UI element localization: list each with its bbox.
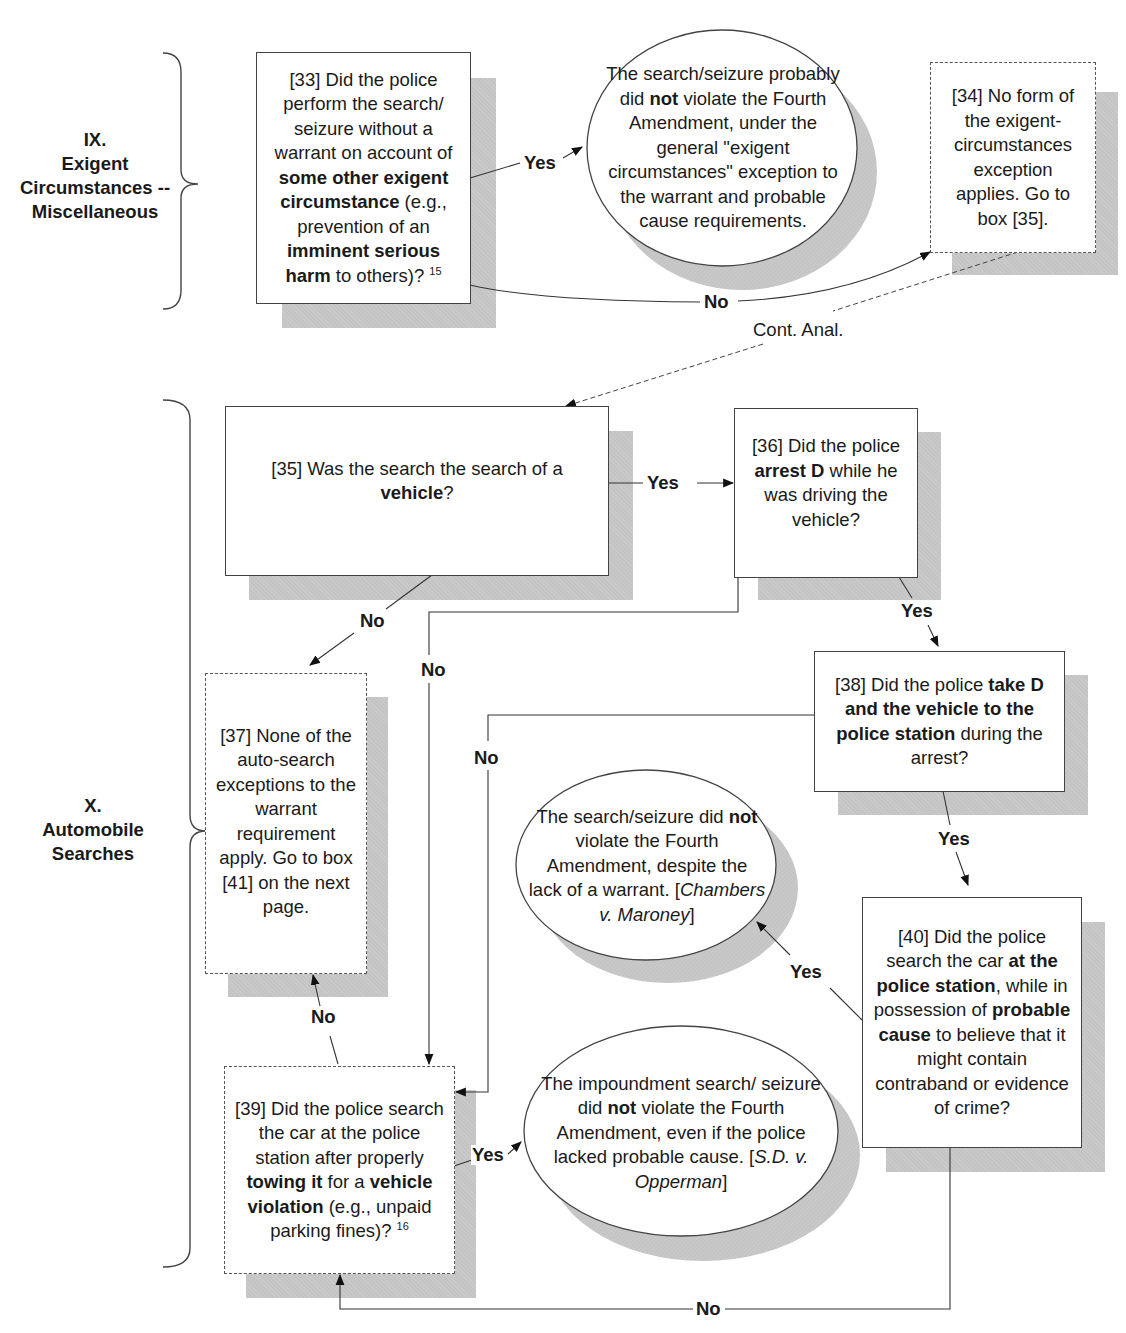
- oval-chambers-text: The search/seizure did not violate the F…: [528, 805, 766, 928]
- box-38-text: [38] Did the police take D and the vehic…: [825, 673, 1054, 771]
- section-ix-title-2: Circumstances --: [0, 176, 190, 200]
- edge-36-yes-label: Yes: [900, 601, 934, 621]
- box-36-text: [36] Did the police arrest D while he wa…: [745, 434, 907, 532]
- section-ix-number: IX.: [0, 128, 190, 152]
- oval-exigent: The search/seizure probably did not viol…: [592, 50, 854, 246]
- section-ix-title-3: Miscellaneous: [0, 200, 190, 224]
- edge-36-no-label: No: [420, 660, 447, 680]
- section-ix-title-1: Exigent: [0, 152, 190, 176]
- oval-opperman-text: The impoundment search/ seizure did not …: [536, 1072, 826, 1195]
- box-34: [34] No form of the exigent-circumstance…: [930, 62, 1096, 253]
- edge-39-yes-label: Yes: [471, 1145, 505, 1165]
- oval-chambers: The search/seizure did not violate the F…: [528, 800, 766, 932]
- footnote-16: 16: [397, 1220, 409, 1232]
- box-37-text: [37] None of the auto-search exceptions …: [214, 724, 358, 920]
- edge-38-no-label: No: [473, 748, 500, 768]
- section-x-number: X.: [0, 794, 186, 818]
- edge-33-no-label: No: [703, 292, 730, 312]
- box-35: [35] Was the search the search of a vehi…: [225, 406, 609, 576]
- edge-35-no-label: No: [359, 611, 386, 631]
- box-33-text: [33] Did the police perform the search/ …: [269, 68, 458, 289]
- edge-35-yes-label: Yes: [646, 473, 680, 493]
- edge-33-yes-label: Yes: [523, 153, 557, 173]
- section-ix-label: IX. Exigent Circumstances -- Miscellaneo…: [0, 128, 190, 224]
- box-40-text: [40] Did the police search the car at th…: [871, 925, 1073, 1121]
- box-36: [36] Did the police arrest D while he wa…: [734, 408, 918, 578]
- oval-opperman: The impoundment search/ seizure did not …: [536, 1065, 826, 1201]
- section-x-title-1: Automobile: [0, 818, 186, 842]
- edge-34-cont-label: Cont. Anal.: [753, 320, 844, 340]
- section-x-title-2: Searches: [0, 842, 186, 866]
- edge-39-no-label: No: [310, 1007, 337, 1027]
- oval-exigent-text: The search/seizure probably did not viol…: [596, 62, 850, 234]
- box-39-text: [39] Did the police search the car at th…: [233, 1097, 446, 1244]
- edge-40-yes-label: Yes: [789, 962, 823, 982]
- edge-40-no-label: No: [695, 1299, 722, 1319]
- box-40: [40] Did the police search the car at th…: [862, 897, 1082, 1148]
- box-37: [37] None of the auto-search exceptions …: [205, 673, 367, 974]
- box-35-text: [35] Was the search the search of a vehi…: [266, 457, 568, 506]
- box-38: [38] Did the police take D and the vehic…: [814, 651, 1065, 792]
- section-x-label: X. Automobile Searches: [0, 794, 186, 866]
- box-33: [33] Did the police perform the search/ …: [256, 52, 471, 304]
- box-39: [39] Did the police search the car at th…: [224, 1066, 455, 1274]
- box-34-text: [34] No form of the exigent-circumstance…: [939, 84, 1087, 231]
- edge-38-yes-label: Yes: [937, 829, 971, 849]
- footnote-15: 15: [429, 265, 441, 277]
